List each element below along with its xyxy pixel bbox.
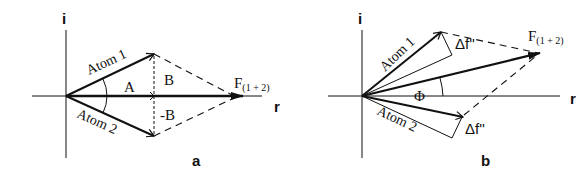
phase-arc <box>440 78 443 96</box>
component-A-label: A <box>124 79 135 95</box>
imaginary-axis-label: i <box>358 10 362 27</box>
anomalous-1-label: Δf'' <box>455 35 475 52</box>
anomalous-2-segment <box>452 117 462 138</box>
panel-b-label: b <box>481 152 490 169</box>
imaginary-axis-label: i <box>62 10 66 27</box>
anomalous-2-label: Δf'' <box>465 120 485 137</box>
real-axis-label: r <box>274 98 280 115</box>
atom-1-label: Atom 1 <box>84 46 129 78</box>
component-B-label: B <box>164 72 174 88</box>
atom-1-normal-vector <box>362 55 452 96</box>
panel-b: i r Atom 1 Atom 2 Δf'' Δf'' Φ F(1 + 2) b <box>328 10 576 169</box>
atom-2-label: Atom 2 <box>375 103 420 135</box>
panel-a: i r Atom 1 Atom 2 A B -B F(1 + 2) a <box>32 10 280 169</box>
real-axis-label: r <box>570 90 576 107</box>
panel-a-label: a <box>192 152 201 169</box>
resultant-label: F(1 + 2) <box>234 75 270 94</box>
anomalous-1-segment <box>441 32 452 55</box>
dashed-line-lower <box>464 57 535 115</box>
structure-factor-diagram: i r Atom 1 Atom 2 A B -B F(1 + 2) a i r <box>0 0 585 179</box>
resultant-label: F(1 + 2) <box>528 28 564 47</box>
component-negB-label: -B <box>160 107 175 123</box>
phase-label: Φ <box>414 88 425 104</box>
